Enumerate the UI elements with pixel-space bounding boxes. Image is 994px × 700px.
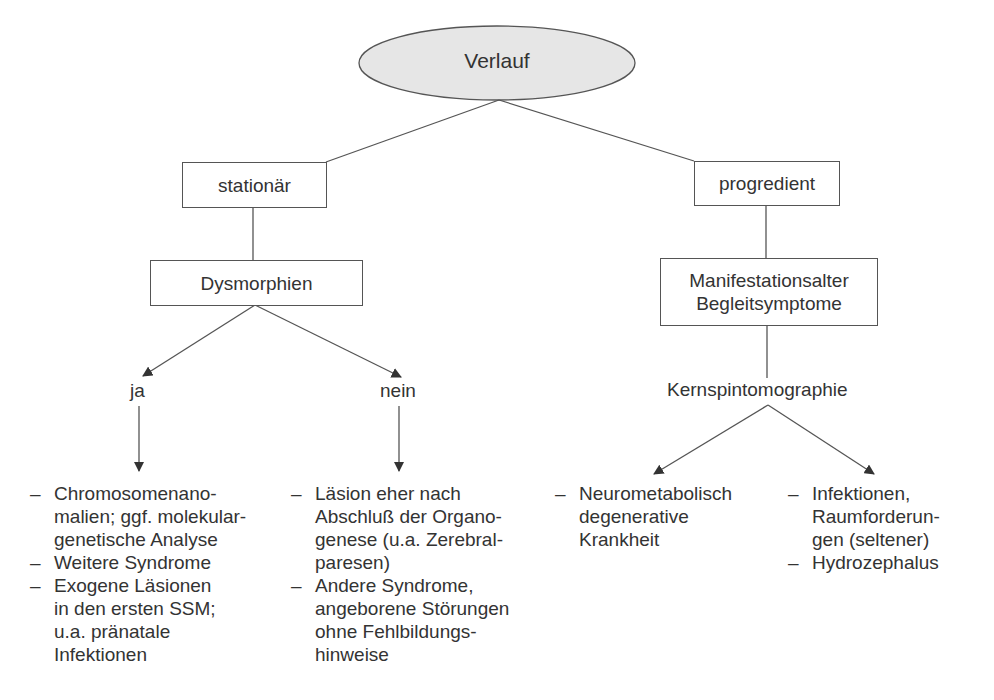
node-manifestationsalter: Manifestationsalter Begleitsymptome xyxy=(660,258,878,326)
list-nein: – Läsion eher nach Abschluß der Organo- … xyxy=(287,482,509,666)
list-item: – Hydrozephalus xyxy=(784,551,940,574)
list-item: – Weitere Syndrome xyxy=(26,551,246,574)
node-progredient: progredient xyxy=(694,161,840,206)
root-label: Verlauf xyxy=(427,49,567,73)
node-stationaer: stationär xyxy=(182,162,327,208)
list-item: – Exogene Läsionen in den ersten SSM; u.… xyxy=(26,574,246,666)
label-kernspintomographie: Kernspintomographie xyxy=(667,379,848,401)
list-item: – Andere Syndrome, angeborene Störungen … xyxy=(287,574,509,666)
list-ja: – Chromosomenano- malien; ggf. molekular… xyxy=(26,482,246,666)
list-infektionen: – Infektionen, Raumforderun- gen (selten… xyxy=(784,482,940,574)
list-item: – Neurometabolisch degenerative Krankhei… xyxy=(551,482,732,551)
node-manifestationsalter-line2: Begleitsymptome xyxy=(696,292,842,315)
label-nein: nein xyxy=(380,380,416,402)
label-ja: ja xyxy=(130,380,145,402)
node-dysmorphien: Dysmorphien xyxy=(150,260,363,306)
node-manifestationsalter-line1: Manifestationsalter xyxy=(689,269,848,292)
list-neurometabolisch: – Neurometabolisch degenerative Krankhei… xyxy=(551,482,732,551)
list-item: – Infektionen, Raumforderun- gen (selten… xyxy=(784,482,940,551)
list-item: – Läsion eher nach Abschluß der Organo- … xyxy=(287,482,509,574)
list-item: – Chromosomenano- malien; ggf. molekular… xyxy=(26,482,246,551)
